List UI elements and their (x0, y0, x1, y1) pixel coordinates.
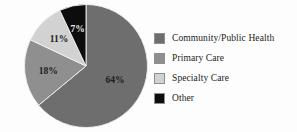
pie-chart-plot-area: 64%18%11%7% (24, 4, 148, 128)
legend-color-swatch-icon (154, 93, 165, 104)
legend-color-swatch-icon (154, 53, 165, 64)
legend-color-swatch-icon (154, 33, 165, 44)
legend-item-label: Specialty Care (172, 73, 229, 83)
pie-slice-data-label: 64% (105, 75, 124, 85)
legend-item-label: Community/Public Health (172, 33, 274, 43)
legend-item[interactable]: Other (154, 88, 296, 108)
pie-chart-figure: 64%18%11%7% Community/Public HealthPrima… (0, 0, 297, 132)
legend-item-label: Primary Care (172, 53, 224, 63)
chart-legend: Community/Public HealthPrimary CareSpeci… (154, 28, 296, 108)
legend-item[interactable]: Specialty Care (154, 68, 296, 88)
pie-slice-data-label: 7% (71, 24, 85, 34)
legend-item[interactable]: Community/Public Health (154, 28, 296, 48)
legend-item-label: Other (172, 93, 194, 103)
legend-item[interactable]: Primary Care (154, 48, 296, 68)
pie-slice-data-label: 11% (50, 34, 68, 44)
legend-color-swatch-icon (154, 73, 165, 84)
pie-chart-svg: 64%18%11%7% (24, 4, 148, 128)
pie-slice-data-label: 18% (39, 66, 58, 76)
